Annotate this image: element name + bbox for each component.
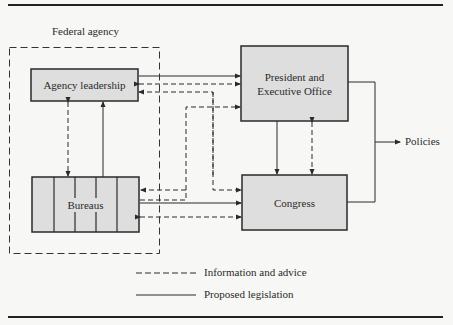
agency-leadership-label: Agency leadership [31,69,138,101]
policies-label: Policies [405,135,440,147]
president-label-line2: Executive Office [257,84,332,98]
president-label-line1: President and [265,70,325,84]
legend-dashed-label: Information and advice [204,266,307,278]
president-label: President and Executive Office [241,46,348,121]
edge-bureaus-to-president-dashed [140,107,240,200]
legend-solid-label: Proposed legislation [204,288,294,300]
edge-congress-to-leadership-dashed [139,92,213,175]
bureaus-label: Bureaus [32,177,139,232]
federal-agency-label: Federal agency [52,25,119,37]
edge-president-to-policies [347,82,375,202]
congress-label: Congress [242,175,347,230]
bureaus-label-text: Bureaus [66,198,104,212]
edge-president-to-bureaus-dashed [140,175,213,190]
